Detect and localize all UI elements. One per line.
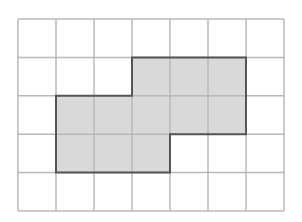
shaded-cell (208, 96, 246, 134)
shaded-cell (94, 96, 132, 134)
shaded-cell (132, 134, 170, 172)
shaded-cell (170, 96, 208, 134)
grid-diagram (0, 0, 302, 222)
shaded-cell (56, 96, 94, 134)
shaded-cell (56, 134, 94, 172)
shaded-cell (208, 57, 246, 95)
shaded-cell (94, 134, 132, 172)
shaded-cell (132, 57, 170, 95)
shaded-cell (132, 96, 170, 134)
shaded-cell (170, 57, 208, 95)
